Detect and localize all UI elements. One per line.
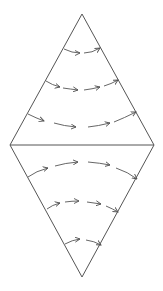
flow-arrow — [106, 206, 118, 212]
lower-flow-rows — [28, 162, 137, 245]
flow-arrow — [84, 48, 100, 53]
flow-arrow — [84, 87, 100, 90]
flow-arrow — [104, 80, 118, 86]
flow-arrow — [63, 88, 78, 90]
flow-arrow — [114, 112, 136, 122]
flow-arrow — [54, 123, 76, 127]
flow-arrow — [47, 203, 60, 209]
flow-arrow — [87, 202, 101, 204]
flow-arrow — [65, 201, 79, 202]
flow-arrow — [65, 239, 80, 244]
flow-arrow — [46, 81, 60, 87]
flow-arrow — [88, 162, 110, 165]
flow-arrow — [64, 49, 80, 53]
flow-arrow — [88, 123, 110, 127]
flow-arrow — [28, 168, 48, 177]
flow-arrow — [116, 168, 137, 179]
flow-arrow — [28, 114, 44, 121]
upper-flow-rows — [28, 48, 136, 127]
flow-arrow — [55, 162, 78, 166]
diamond-diagram — [0, 0, 163, 291]
flow-arrow — [86, 240, 101, 245]
